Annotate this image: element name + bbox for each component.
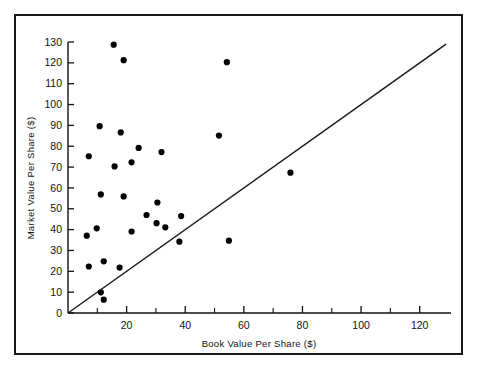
data-point [97, 123, 103, 129]
data-point [143, 212, 149, 218]
data-point [101, 297, 107, 303]
data-point [136, 145, 142, 151]
y-tick-label-20: 20 [50, 265, 62, 277]
x-tick-label-40: 40 [179, 319, 191, 331]
y-tick-label-40: 40 [50, 223, 62, 235]
x-axis-title: Book Value Per Share ($) [202, 338, 317, 349]
x-tick-label-100: 100 [352, 319, 370, 331]
data-point [153, 220, 159, 226]
data-point [84, 233, 90, 239]
figure-frame: 0102030405060708090100110120130 20406080… [14, 14, 463, 355]
data-point [118, 129, 124, 135]
data-point [86, 263, 92, 269]
y-tick-label-50: 50 [50, 202, 62, 214]
data-point [158, 149, 164, 155]
data-point [128, 159, 134, 165]
x-tick-label-60: 60 [238, 319, 250, 331]
data-point [154, 199, 160, 205]
data-point [178, 213, 184, 219]
identity-reference-line [68, 44, 446, 313]
data-point [98, 191, 104, 197]
scatter-plot: 0102030405060708090100110120130 20406080… [16, 16, 461, 353]
data-point [121, 193, 127, 199]
y-tick-label-80: 80 [50, 140, 62, 152]
y-tick-label-100: 100 [44, 98, 62, 110]
x-tick-label-20: 20 [121, 319, 133, 331]
data-point [162, 224, 168, 230]
data-point [86, 153, 92, 159]
y-tick-label-60: 60 [50, 182, 62, 194]
data-point [111, 42, 117, 48]
data-point [226, 238, 232, 244]
y-tick-label-10: 10 [50, 286, 62, 298]
data-point [216, 132, 222, 138]
y-tick-label-110: 110 [45, 77, 62, 89]
data-point [116, 264, 122, 270]
data-point [98, 289, 104, 295]
data-point [128, 228, 134, 234]
y-axis-ticks [68, 42, 74, 313]
data-point [101, 258, 107, 264]
x-tick-label-80: 80 [297, 319, 309, 331]
y-axis-title: Market Value Per Share ($) [25, 117, 36, 240]
y-tick-label-130: 130 [44, 36, 62, 48]
y-tick-label-0: 0 [56, 307, 62, 319]
y-tick-label-30: 30 [50, 244, 62, 256]
data-point [224, 59, 230, 65]
data-point [121, 57, 127, 63]
data-point [176, 239, 182, 245]
data-point [111, 163, 117, 169]
y-tick-label-90: 90 [50, 119, 62, 131]
y-tick-label-120: 120 [44, 56, 62, 68]
x-tick-label-120: 120 [411, 319, 429, 331]
y-tick-label-70: 70 [50, 161, 62, 173]
x-axis-ticks [97, 306, 419, 313]
data-points-group [84, 42, 294, 303]
data-point [287, 170, 293, 176]
data-point [94, 225, 100, 231]
x-axis-tick-labels: 20406080100120 [121, 319, 429, 331]
y-axis-tick-labels: 0102030405060708090100110120130 [44, 36, 62, 319]
